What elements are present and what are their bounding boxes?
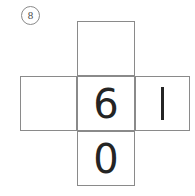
net-cell-right-value: 1 xyxy=(136,77,189,130)
problem-number-badge: 8 xyxy=(21,6,40,25)
net-cell-left-value xyxy=(21,77,76,130)
worksheet-canvas: 8 6 1 0 xyxy=(0,0,195,196)
net-cell-center-value: 6 xyxy=(78,77,134,130)
net-cell-bottom[interactable]: 0 xyxy=(77,131,135,186)
net-cell-center[interactable]: 6 xyxy=(77,76,135,131)
net-cell-bottom-value: 0 xyxy=(78,132,134,185)
net-cell-right[interactable]: 1 xyxy=(135,76,190,131)
net-cell-top[interactable] xyxy=(77,21,135,76)
net-cell-top-value xyxy=(78,22,134,75)
net-cell-left[interactable] xyxy=(20,76,77,131)
digit-one-stroke xyxy=(161,87,164,120)
